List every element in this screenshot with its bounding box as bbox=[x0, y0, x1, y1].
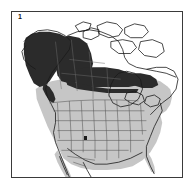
map-frame bbox=[11, 11, 183, 178]
figure-root: 1 bbox=[0, 0, 186, 194]
north-america-distribution-map bbox=[12, 12, 182, 177]
locality-dot bbox=[84, 136, 87, 140]
figure-number-label: 1 bbox=[18, 13, 22, 20]
